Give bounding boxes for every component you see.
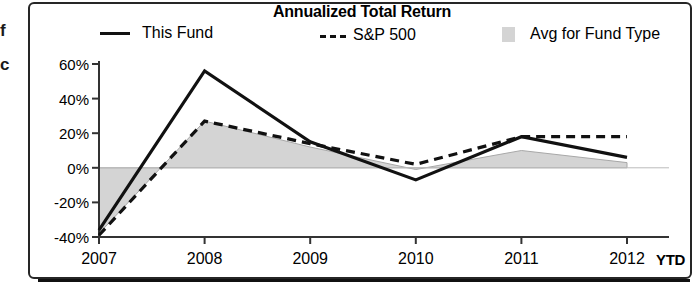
series-line-sp500 xyxy=(99,121,627,235)
x-axis-tick-label: 2010 xyxy=(378,251,454,267)
plot-area: 60%40%20%0%-20%-40% 20072008200920102011… xyxy=(30,4,694,281)
x-axis-tick-label: 2009 xyxy=(272,251,348,267)
y-axis-tick-label: 40% xyxy=(31,92,89,107)
y-axis-tick-label: -40% xyxy=(31,230,89,245)
y-axis-tick-label: 60% xyxy=(31,57,89,72)
chart-plot-svg xyxy=(30,4,694,281)
chart-frame: Annualized Total Return This Fund S&P 50… xyxy=(28,2,692,279)
page-bottom-rule xyxy=(38,279,690,282)
x-axis-tick-label: 2012 xyxy=(589,251,665,267)
x-axis-tick-label: 2007 xyxy=(61,251,137,267)
page-edge-cutoff-text: f c xyxy=(0,14,26,82)
x-axis-unit-label: YTD xyxy=(656,252,685,267)
x-axis-tick-label: 2011 xyxy=(483,251,559,267)
y-axis-tick-label: 0% xyxy=(31,161,89,176)
page-edge-text-line-1: f xyxy=(0,14,26,48)
x-axis-tick-label: 2008 xyxy=(167,251,243,267)
avg-fund-type-area xyxy=(99,121,627,233)
y-axis-tick-label: 20% xyxy=(31,126,89,141)
page-edge-text-line-2: c xyxy=(0,48,26,82)
y-axis-tick-label: -20% xyxy=(31,195,89,210)
